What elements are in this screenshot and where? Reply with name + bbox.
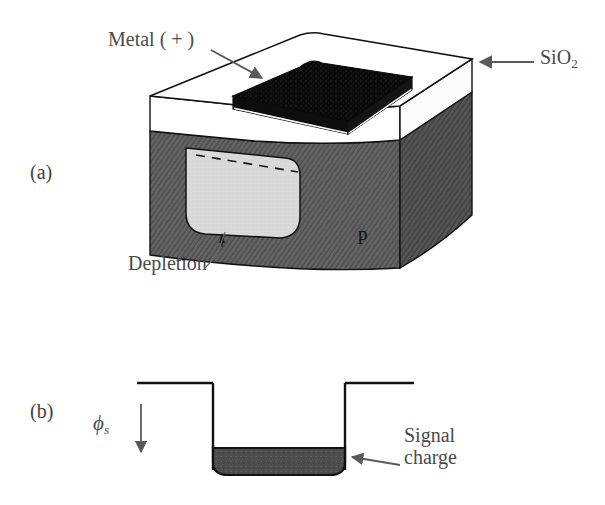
signal-charge-fill (213, 448, 345, 475)
substrate-label-p: p (358, 223, 368, 244)
signal-charge-label-line2: charge (404, 446, 457, 468)
depletion-region (186, 148, 300, 238)
signal-charge-arrow (352, 457, 400, 465)
surface-potential-label: ϕs (93, 412, 109, 437)
oxide-label-text: SiO (540, 46, 571, 68)
signal-charge-label: Signal charge (404, 424, 457, 469)
phi-symbol: ϕ (93, 411, 104, 435)
oxide-label-subscript: 2 (571, 56, 578, 71)
figure-root: (a) Metal ( + ) SiO2 Depletion p (b) ϕs … (0, 0, 605, 505)
figure-canvas (0, 0, 605, 505)
panel-label-a: (a) (30, 161, 52, 183)
potential-well-diagram (137, 383, 414, 475)
oxide-label: SiO2 (540, 46, 578, 71)
mos-block-3d (150, 33, 472, 270)
panel-label-b: (b) (30, 400, 53, 422)
phi-subscript: s (104, 422, 109, 437)
metal-label: Metal ( + ) (108, 28, 194, 50)
depletion-label: Depletion (128, 252, 207, 274)
signal-charge-label-line1: Signal (404, 424, 457, 446)
